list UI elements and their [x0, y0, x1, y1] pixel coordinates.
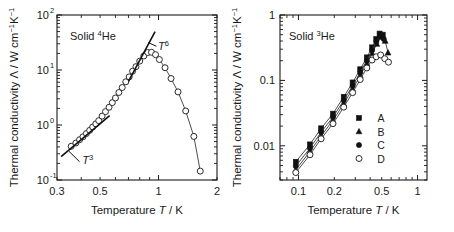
x-tick-label: 1	[155, 185, 161, 197]
y-tick-label: 101	[37, 61, 54, 76]
data-point	[119, 85, 125, 91]
x-tick-label: 0.5	[374, 185, 389, 197]
power-law-label-t6: T6	[158, 39, 169, 52]
data-point-C	[330, 114, 335, 119]
y-tick-label: 0.01	[254, 140, 275, 152]
material-annotation: Solid 4He	[70, 29, 116, 42]
data-point-C	[358, 70, 363, 75]
y-axis-title-text: Thermal conductivity Λ / W cm−1K−1	[230, 8, 243, 187]
panel-solid-he4: 0.30.51210-1100101102Temperature T / KTh…	[0, 0, 227, 232]
power-law-label-t3: T3	[82, 153, 93, 166]
x-tick-label: 1	[415, 185, 421, 197]
y-tick-label: 1	[269, 9, 275, 21]
y-tick-label-mantissa: 10	[37, 9, 49, 21]
data-point-C	[341, 98, 346, 103]
y-tick-label: 100	[37, 116, 54, 131]
data-point-D	[307, 152, 313, 158]
material-annotation: Solid 3He	[289, 29, 335, 42]
data-point	[162, 65, 168, 71]
x-tick-label: 2	[214, 185, 220, 197]
legend-label-C: C	[377, 139, 385, 151]
data-point-C	[319, 130, 324, 135]
legend-label-B: B	[377, 126, 384, 138]
legend-label-A: A	[377, 112, 384, 124]
leader-t6	[148, 43, 156, 47]
data-point	[112, 95, 118, 101]
data-point-D	[293, 170, 299, 176]
data-point	[175, 89, 181, 95]
data-point-C	[374, 39, 379, 44]
power-law-line-t3	[61, 116, 110, 157]
x-tick-label: 0.2	[327, 185, 342, 197]
legend-marker-A	[357, 116, 362, 121]
y-tick-label: 10-1	[37, 171, 57, 186]
y-tick-label-exponent: 2	[50, 6, 54, 15]
data-point-D	[357, 77, 363, 83]
legend-label-D: D	[377, 153, 385, 165]
y-axis-title: Thermal conductivity Λ / W cm−1K−1	[7, 8, 20, 187]
data-point	[156, 57, 162, 63]
data-point-D	[341, 104, 347, 110]
data-point-B	[385, 50, 391, 55]
leader-t3	[69, 151, 80, 162]
legend-marker-C	[356, 142, 361, 147]
data-point	[183, 108, 189, 114]
data-point-C	[369, 48, 374, 53]
x-axis-title-text: Temperature T / K	[91, 204, 183, 216]
data-point	[197, 168, 203, 174]
data-point-D	[350, 90, 356, 96]
data-point-D	[318, 136, 324, 142]
x-tick-label: 0.1	[291, 185, 306, 197]
y-tick-label: 102	[37, 6, 54, 21]
x-axis-title-text: Temperature T / K	[307, 204, 399, 216]
legend-marker-B	[356, 128, 362, 133]
data-point	[191, 133, 197, 139]
panel-left-svg: 0.30.51210-1100101102Temperature T / KTh…	[0, 0, 227, 232]
data-point-C	[307, 146, 312, 151]
figure-container: 0.30.51210-1100101102Temperature T / KTh…	[0, 0, 454, 232]
data-point-C	[350, 83, 355, 88]
panel-solid-he3: 0.10.20.510.010.11Temperature T / KTherm…	[227, 0, 454, 232]
x-tick-label: 0.5	[92, 185, 107, 197]
x-axis-title: Temperature T / K	[307, 204, 399, 216]
y-tick-label-mantissa: 10	[37, 174, 49, 186]
y-tick-label-exponent: -1	[50, 171, 57, 180]
y-tick-label-mantissa: 10	[37, 119, 49, 131]
legend-marker-D	[356, 156, 362, 162]
y-tick-label-exponent: 1	[50, 61, 54, 70]
data-point-D	[364, 65, 370, 71]
x-axis-title: Temperature T / K	[91, 204, 183, 216]
data-point-C	[381, 36, 386, 41]
x-tick-label: 0.3	[49, 185, 64, 197]
y-axis-title: Thermal conductivity Λ / W cm−1K−1	[230, 8, 243, 187]
y-tick-label-mantissa: 10	[37, 64, 49, 76]
data-point-C	[293, 163, 298, 168]
y-tick-label: 0.1	[260, 74, 275, 86]
data-point-D	[330, 121, 336, 127]
y-tick-label-exponent: 0	[50, 116, 54, 125]
panel-right-svg: 0.10.20.510.010.11Temperature T / KTherm…	[227, 0, 454, 232]
data-point	[168, 76, 174, 82]
data-point-D	[385, 59, 391, 65]
y-axis-title-text: Thermal conductivity Λ / W cm−1K−1	[7, 8, 20, 187]
power-law-line-t6	[128, 32, 155, 82]
